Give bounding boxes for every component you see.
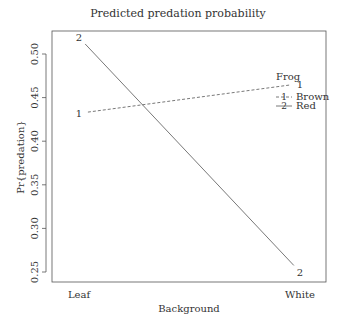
legend: Frog1Brown2Red: [276, 71, 330, 111]
legend-title: Frog: [276, 71, 301, 82]
y-tick-label: 0.30: [29, 217, 40, 239]
legend-label-red: Red: [296, 100, 316, 111]
x-tick-label: Leaf: [68, 289, 92, 300]
series-line-brown: [88, 85, 291, 112]
y-tick-label: 0.45: [29, 86, 40, 108]
point-marker-red: 2: [297, 267, 303, 278]
x-tick-label: White: [285, 289, 315, 300]
y-tick-label: 0.40: [29, 130, 40, 152]
y-axis-label: Pr{predation}: [15, 120, 26, 193]
point-marker-brown: 1: [76, 108, 82, 119]
y-tick-label: 0.25: [29, 261, 40, 283]
x-axis-label: Background: [158, 303, 220, 314]
interaction-plot: Predicted predation probability 0.250.30…: [0, 0, 343, 325]
y-axis: 0.250.300.350.400.450.50: [29, 43, 46, 283]
series-lines: 1122: [76, 32, 303, 278]
series-line-red: [85, 44, 294, 265]
legend-symbol: 2: [281, 101, 287, 111]
point-marker-red: 2: [76, 32, 82, 43]
chart-title: Predicted predation probability: [90, 7, 266, 20]
y-tick-label: 0.35: [29, 174, 40, 196]
plot-frame: [52, 31, 326, 282]
x-axis: LeafWhite: [68, 289, 315, 300]
y-tick-label: 0.50: [29, 43, 40, 65]
